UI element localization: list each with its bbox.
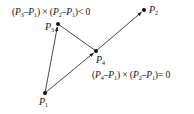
edge-p1-p4 [45,53,94,93]
point-p1 [43,91,47,95]
label-p3: P3 [45,22,54,33]
point-p3 [56,22,60,26]
edge-p4-p2 [96,12,142,51]
point-p4 [94,49,98,53]
edge-p1-p3 [45,27,57,93]
label-p1: P1 [39,97,48,108]
label-p4: P4 [96,55,105,66]
edge-p3-p4 [58,24,96,51]
equation-cross-negative: (P3–P1) × (P2–P1)< 0 [12,8,90,18]
equation-cross-zero: (P4–P1) × (P2–P1)= 0 [92,71,170,81]
label-p2: P2 [149,5,158,16]
point-p2 [142,8,146,12]
